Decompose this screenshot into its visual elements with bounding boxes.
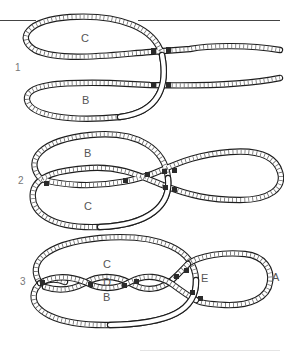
step-3-label-crossing: E <box>201 273 208 284</box>
knot-diagram: 1 C B 2 B C 3 C D B E A <box>0 0 284 352</box>
rope-drawing <box>0 0 284 352</box>
step-2-label-lower: C <box>84 201 92 212</box>
step-2-number: 2 <box>18 176 24 186</box>
step-3-label-end-loop: A <box>272 272 279 283</box>
step-1-label-upper: C <box>81 33 89 44</box>
step-1-rope <box>26 17 280 119</box>
step-3-rope <box>34 237 271 325</box>
step-3-number: 3 <box>20 277 26 287</box>
step-3-label-top: C <box>103 259 111 270</box>
step-1-label-lower: B <box>82 95 89 106</box>
step-3-label-bottom: B <box>103 292 110 303</box>
step-1-number: 1 <box>15 63 21 73</box>
step-3-label-center: D <box>103 277 111 288</box>
step-2-label-upper: B <box>84 148 91 159</box>
step-2-rope <box>33 134 281 227</box>
